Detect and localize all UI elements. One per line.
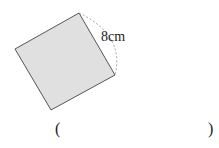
answer-close-paren: ) [208, 120, 213, 138]
answer-open-paren: ( [55, 120, 60, 138]
side-length-label: 8cm [101, 29, 125, 45]
square-figure [0, 0, 219, 148]
square-shape [15, 13, 115, 110]
